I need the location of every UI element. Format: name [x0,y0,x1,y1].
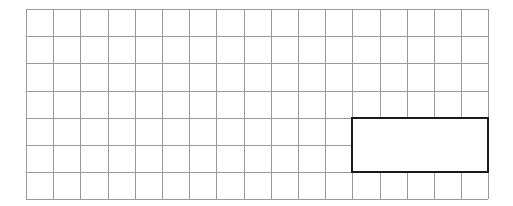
grid-line-vertical [325,9,326,199]
grid-line-vertical [135,9,136,199]
grid-line-vertical [26,9,27,199]
highlight-rectangle[interactable] [351,117,489,173]
grid-line-vertical [162,9,163,199]
figure-canvas [0,0,513,206]
grid-line-horizontal [26,36,488,37]
grid-line-horizontal [26,199,488,200]
grid-line-horizontal [26,9,488,10]
grid-line-vertical [189,9,190,199]
grid-line-vertical [244,9,245,199]
grid-line-vertical [298,9,299,199]
grid-line-vertical [216,9,217,199]
grid-line-vertical [108,9,109,199]
grid-line-vertical [53,9,54,199]
grid-line-vertical [80,9,81,199]
grid-line-horizontal [26,91,488,92]
grid-line-vertical [271,9,272,199]
grid-line-horizontal [26,63,488,64]
